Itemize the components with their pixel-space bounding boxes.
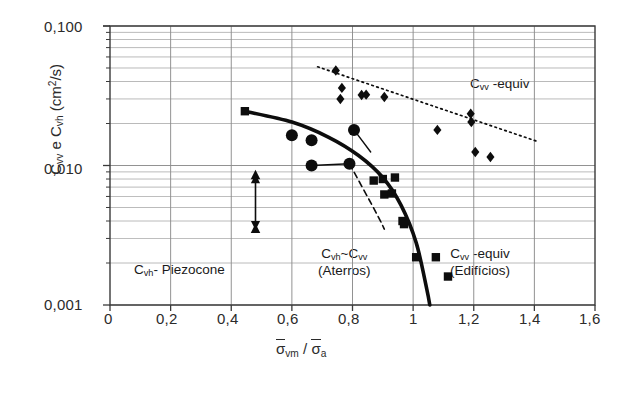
data-point-diamond bbox=[338, 83, 346, 93]
data-point-square bbox=[432, 253, 440, 261]
data-point-square bbox=[380, 190, 388, 198]
data-point-square bbox=[370, 176, 378, 184]
data-point-circle bbox=[306, 160, 318, 172]
data-point-square bbox=[412, 253, 420, 261]
data-point-circle bbox=[286, 129, 298, 141]
data-point-diamond bbox=[362, 89, 370, 99]
data-point-diamond bbox=[336, 94, 344, 104]
chart-figure: Cvv e Cvh (cm2/s) 0,100 0,010 0,001 0 0,… bbox=[0, 0, 633, 394]
data-point-diamond bbox=[380, 92, 388, 102]
plot-canvas bbox=[0, 0, 633, 394]
range-arrow-head-down bbox=[251, 221, 260, 230]
data-point-circle bbox=[343, 158, 355, 170]
data-point-square bbox=[400, 220, 408, 228]
data-point-square bbox=[388, 189, 396, 197]
data-point-square bbox=[391, 173, 399, 181]
data-point-circle bbox=[348, 124, 360, 136]
data-point-square bbox=[241, 107, 249, 115]
trend-line-thick-design-curve bbox=[245, 111, 430, 305]
data-point-circle bbox=[306, 134, 318, 146]
data-point-diamond bbox=[486, 152, 494, 162]
data-point-diamond bbox=[433, 125, 441, 135]
data-point-square bbox=[379, 175, 387, 183]
data-point-diamond bbox=[471, 147, 479, 157]
data-point-square bbox=[444, 272, 452, 280]
